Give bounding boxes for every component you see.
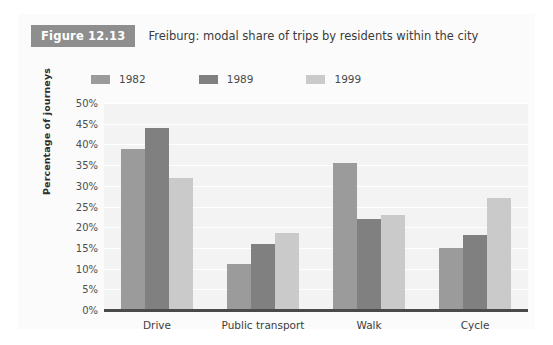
y-axis-tick-label: 40%	[76, 139, 98, 150]
bar	[487, 198, 511, 310]
legend-item: 1999	[306, 73, 361, 85]
y-axis-tick-label: 15%	[76, 242, 98, 253]
figure-panel: Figure 12.13 Freiburg: modal share of tr…	[18, 14, 535, 329]
y-axis-tick-label: 30%	[76, 180, 98, 191]
bar	[169, 178, 193, 310]
bar	[463, 235, 487, 310]
bar	[121, 149, 145, 310]
legend-label: 1989	[227, 73, 254, 85]
plot-area: 0%5%10%15%20%25%30%35%40%45%50%DrivePubl…	[104, 103, 528, 310]
y-axis-tick-label: 45%	[76, 118, 98, 129]
figure-number-badge: Figure 12.13	[31, 25, 135, 47]
figure-title: Freiburg: modal share of trips by reside…	[135, 25, 478, 47]
legend-item: 1982	[91, 73, 146, 85]
y-axis-tick-label: 0%	[82, 305, 98, 316]
bar	[439, 248, 463, 310]
bar	[381, 215, 405, 310]
bar-group: Walk	[316, 103, 422, 310]
y-axis-tick-label: 5%	[82, 284, 98, 295]
bar-group: Public transport	[210, 103, 316, 310]
legend-label: 1999	[334, 73, 361, 85]
bar	[333, 163, 357, 310]
legend-label: 1982	[119, 73, 146, 85]
legend-swatch-icon	[306, 75, 325, 84]
bar-group: Drive	[104, 103, 210, 310]
y-axis-tick-label: 50%	[76, 98, 98, 109]
legend-item: 1989	[199, 73, 254, 85]
legend-swatch-icon	[199, 75, 218, 84]
y-axis-tick-label: 35%	[76, 160, 98, 171]
bar	[275, 233, 299, 310]
bar	[357, 219, 381, 310]
x-axis-line	[104, 309, 528, 312]
bar	[251, 244, 275, 310]
bar	[145, 128, 169, 310]
y-axis-tick-label: 20%	[76, 222, 98, 233]
bar	[227, 264, 251, 310]
bar-group: Cycle	[422, 103, 528, 310]
y-axis-tick-label: 10%	[76, 263, 98, 274]
y-axis-title: Percentage of journeys	[41, 52, 52, 212]
chart-legend: 198219891999	[91, 73, 414, 85]
figure-header: Figure 12.13 Freiburg: modal share of tr…	[31, 25, 478, 47]
y-axis-tick-label: 25%	[76, 201, 98, 212]
legend-swatch-icon	[91, 75, 110, 84]
x-axis-category-label: Cycle	[400, 319, 550, 331]
